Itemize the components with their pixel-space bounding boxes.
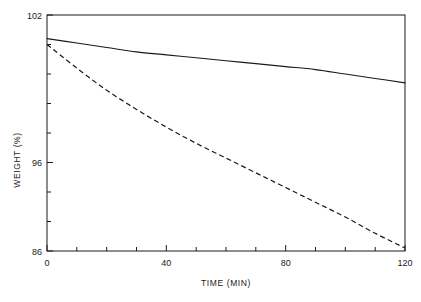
weight-vs-time-chart: 102 96 86 WEIGHT (%) 0 40 80 120 TIME (M… xyxy=(0,0,421,302)
x-axis-title: TIME (MIN) xyxy=(201,278,251,288)
x-tick-label-80: 80 xyxy=(281,258,291,268)
chart-background xyxy=(0,0,421,302)
y-tick-label-86: 86 xyxy=(32,247,42,257)
y-axis-title: WEIGHT (%) xyxy=(12,132,22,187)
x-tick-label-0: 0 xyxy=(44,258,49,268)
y-tick-label-102: 102 xyxy=(27,11,42,21)
x-tick-label-120: 120 xyxy=(397,258,412,268)
x-tick-label-40: 40 xyxy=(161,258,171,268)
y-tick-label-96: 96 xyxy=(32,158,42,168)
